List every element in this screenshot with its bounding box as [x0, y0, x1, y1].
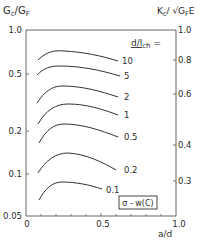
svg-text:0.5: 0.5: [124, 132, 138, 142]
x-axis-title: a/d: [158, 229, 172, 239]
svg-text:1: 1: [124, 110, 129, 120]
svg-text:0.1: 0.1: [8, 169, 22, 179]
curve-0.2: [38, 153, 116, 173]
curve-1: [38, 104, 118, 124]
svg-text:1.0: 1.0: [172, 219, 186, 229]
svg-text:0: 0: [24, 219, 29, 229]
annotation-box: σ - w(C): [119, 196, 157, 209]
svg-text:0.1: 0.1: [106, 185, 120, 195]
curve-0.1: [39, 182, 102, 200]
right-y-tick-labels: 1.0 0.8 0.6 0.4 0.3: [178, 25, 192, 186]
svg-text:0.5: 0.5: [8, 69, 22, 79]
svg-text:0.05: 0.05: [3, 211, 22, 221]
curve-2: [37, 86, 118, 103]
left-axis-title: Gc/GF: [3, 5, 30, 18]
curve-10: [38, 51, 118, 61]
svg-text:0.8: 0.8: [178, 55, 192, 65]
chart: Gc/GF Kc/ √GFE 1.0 0.5 0.2 0.1 0.05 1.0 …: [0, 0, 201, 243]
svg-text:10: 10: [122, 56, 133, 66]
curve-0.5: [39, 124, 118, 143]
svg-text:0.3: 0.3: [178, 176, 192, 186]
curve-labels: 10 5 2 1 0.5 0.2 0.1: [106, 56, 138, 195]
svg-text:5: 5: [124, 71, 129, 81]
left-y-tick-labels: 1.0 0.5 0.2 0.1 0.05: [3, 25, 22, 221]
svg-text:2: 2: [124, 92, 129, 102]
svg-text:0.6: 0.6: [178, 89, 192, 99]
right-axis-title: Kc/ √GFE: [157, 6, 195, 18]
svg-text:1.0: 1.0: [8, 25, 22, 35]
svg-text:1.0: 1.0: [178, 25, 192, 35]
svg-text:0.4: 0.4: [178, 140, 192, 150]
svg-text:σ - w(C): σ - w(C): [122, 199, 153, 208]
curve-5: [37, 66, 120, 76]
svg-text:0.5: 0.5: [96, 219, 110, 229]
x-tick-labels: 0 0.5 1.0: [24, 219, 185, 229]
svg-text:0.2: 0.2: [8, 126, 22, 136]
legend-title: d/lch =: [131, 38, 161, 50]
svg-text:0.2: 0.2: [124, 165, 138, 175]
left-y-ticks: [26, 74, 29, 174]
curves: [37, 51, 120, 200]
